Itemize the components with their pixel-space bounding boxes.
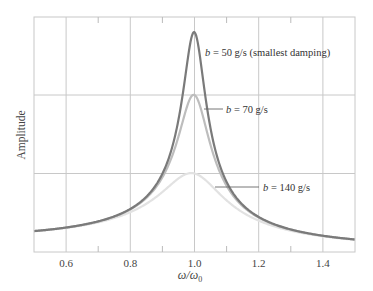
x-tick-label: 0.8	[123, 257, 137, 269]
annotation-b50-text: = 50 g/s (smallest damping)	[210, 47, 330, 59]
svg-text:b = 70 g/s: b = 70 g/s	[226, 104, 268, 115]
x-axis-label-main: ω/ω	[178, 268, 198, 282]
svg-text:b = 140 g/s: b = 140 g/s	[263, 182, 310, 193]
x-axis-label: ω/ω0	[178, 268, 202, 284]
resonance-chart: 0.60.81.01.21.4 b = 50 g/s (smallest dam…	[0, 0, 373, 291]
annotation-b70-text: = 70 g/s	[231, 104, 268, 115]
x-tick-label: 0.6	[59, 257, 73, 269]
annotation-b50: b = 50 g/s (smallest damping)	[205, 47, 331, 59]
x-tick-label: 1.4	[316, 257, 330, 269]
annotation-b70: b = 70 g/s	[204, 104, 268, 115]
x-tick-label: 1.2	[252, 257, 266, 269]
svg-text:b = 50 g/s (smallest damping): b = 50 g/s (smallest damping)	[205, 47, 331, 59]
y-axis-label: Amplitude	[15, 110, 28, 159]
annotation-b140-text: = 140 g/s	[268, 182, 310, 193]
x-axis-label-sub: 0	[198, 275, 202, 284]
